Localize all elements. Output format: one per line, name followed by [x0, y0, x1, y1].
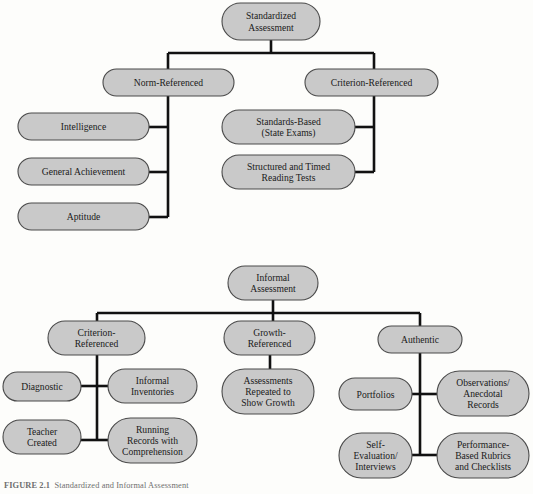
node-intelligence[interactable]: Intelligence — [18, 113, 149, 140]
node-aptitude[interactable]: Aptitude — [18, 203, 149, 230]
node-undefined[interactable]: Criterion-Referenced — [305, 69, 438, 96]
node-label-assessments-repeated-to-show-growth: AssessmentsRepeated toShow Growth — [241, 375, 295, 408]
figure-caption-text: Standardized and Informal Assessment — [55, 481, 189, 490]
node-label-undefined: Criterion-Referenced — [75, 327, 119, 349]
node-observations-anecdotal-records[interactable]: Observations/AnecdotalRecords — [437, 371, 529, 416]
node-undefined[interactable]: Growth-Referenced — [224, 321, 315, 355]
assessment-flowchart-figure: StandardizedAssessmentNorm-ReferencedInt… — [0, 0, 533, 494]
node-undefined[interactable]: Criterion-Referenced — [48, 321, 145, 355]
node-label-informal-inventories: InformalInventories — [131, 375, 174, 397]
node-label-standards-based: Standards-Based(State Exams) — [256, 116, 321, 139]
node-informal-inventories[interactable]: InformalInventories — [108, 369, 197, 403]
node-label-diagnostic: Diagnostic — [21, 381, 63, 392]
node-running-records-with-comprehension[interactable]: RunningRecords withComprehension — [108, 418, 197, 463]
node-undefined[interactable]: Authentic — [378, 326, 462, 353]
figure-caption-label: FIGURE 2.1 — [4, 481, 50, 490]
node-label-standardized-assessment: StandardizedAssessment — [246, 10, 296, 32]
node-label-informal-assessment: InformalAssessment — [250, 272, 296, 294]
node-undefined[interactable]: Norm-Referenced — [103, 69, 234, 96]
node-assessments-repeated-to-show-growth[interactable]: AssessmentsRepeated toShow Growth — [222, 369, 314, 414]
node-performance-based-rubrics-and-checklists[interactable]: Performance-Based Rubricsand Checklists — [437, 433, 529, 478]
node-label-undefined: Norm-Referenced — [134, 77, 203, 88]
node-label-general-achievement: General Achievement — [42, 166, 126, 177]
node-label-undefined: Authentic — [401, 334, 439, 345]
node-label-intelligence: Intelligence — [61, 121, 106, 132]
figure-caption: FIGURE 2.1 Standardized and Informal Ass… — [4, 481, 189, 490]
nodes-layer: StandardizedAssessmentNorm-ReferencedInt… — [3, 3, 529, 478]
node-standards-based[interactable]: Standards-Based(State Exams) — [222, 110, 355, 144]
node-general-achievement[interactable]: General Achievement — [18, 158, 149, 185]
node-informal-assessment[interactable]: InformalAssessment — [228, 266, 318, 300]
node-self-evaluation-interviews[interactable]: Self-Evaluation/Interviews — [339, 433, 412, 478]
node-label-performance-based-rubrics-and-checklists: Performance-Based Rubricsand Checklists — [455, 439, 511, 472]
node-teacher-created[interactable]: TeacherCreated — [3, 420, 81, 454]
node-label-portfolios: Portfolios — [357, 389, 395, 400]
node-standardized-assessment[interactable]: StandardizedAssessment — [222, 3, 320, 40]
node-label-aptitude: Aptitude — [67, 211, 101, 222]
node-label-teacher-created: TeacherCreated — [27, 426, 58, 448]
node-diagnostic[interactable]: Diagnostic — [3, 372, 81, 401]
node-label-undefined: Criterion-Referenced — [331, 77, 413, 88]
node-portfolios[interactable]: Portfolios — [339, 378, 412, 410]
node-label-undefined: Growth-Referenced — [248, 327, 292, 349]
node-structured-timed-reading-tests[interactable]: Structured and TimedReading Tests — [222, 155, 355, 189]
